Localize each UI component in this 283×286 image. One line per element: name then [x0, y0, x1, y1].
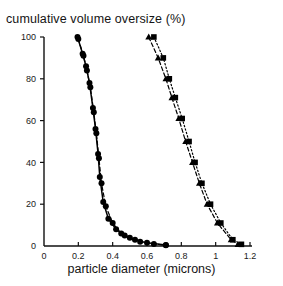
data-point-circle — [127, 235, 133, 241]
y-tick-label: 20 — [26, 199, 36, 209]
data-point-square — [186, 139, 192, 145]
x-tick-label: 0.2 — [72, 251, 85, 261]
data-point-square — [239, 242, 245, 248]
plot-area: 00.20.40.60.811.2 020406080100 — [0, 0, 283, 286]
data-point-circle — [80, 53, 86, 59]
y-tick-label: 60 — [26, 116, 36, 126]
data-point-circle — [93, 130, 99, 136]
x-tick-label: 1 — [213, 251, 218, 261]
data-point-circle — [110, 220, 116, 226]
x-tick-label: 0 — [41, 251, 46, 261]
data-point-square — [218, 220, 224, 226]
series-line — [149, 37, 238, 244]
data-point-circle — [163, 242, 169, 248]
data-point-circle — [103, 203, 109, 209]
y-tick-label: 0 — [31, 241, 36, 251]
data-series-layer — [74, 34, 244, 249]
series-coarse-distribution-square — [151, 34, 244, 247]
series-line — [78, 39, 166, 245]
y-tick-label: 80 — [26, 74, 36, 84]
data-point-circle — [151, 241, 157, 247]
data-point-circle — [137, 239, 143, 245]
data-point-circle — [91, 109, 97, 115]
data-point-circle — [84, 67, 90, 73]
data-point-circle — [118, 230, 124, 236]
x-tick-label: 1.2 — [244, 251, 257, 261]
y-tick-label: 40 — [26, 158, 36, 168]
data-point-square — [179, 116, 185, 122]
data-point-circle — [87, 84, 93, 90]
y-tick-labels: 020406080100 — [21, 32, 36, 251]
x-tick-label: 0.6 — [141, 251, 154, 261]
data-point-circle — [96, 155, 102, 161]
chart-figure: cumulative volume oversize (%) 00.20.40.… — [0, 0, 283, 286]
data-point-square — [151, 34, 157, 40]
series-line — [154, 37, 242, 244]
data-point-square — [192, 160, 198, 166]
axis-lines — [40, 37, 252, 246]
series-fine-distribution-solid — [74, 34, 168, 248]
data-point-square — [161, 55, 167, 61]
data-point-square — [167, 76, 173, 82]
data-point-circle — [99, 180, 105, 186]
data-point-circle — [97, 174, 103, 180]
x-tick-labels: 00.20.40.60.811.2 — [41, 251, 256, 261]
data-point-square — [173, 95, 179, 101]
series-coarse-distribution-triangle — [145, 34, 241, 247]
series-line — [77, 37, 165, 245]
y-tick-label: 100 — [21, 32, 36, 42]
x-axis-label: particle diameter (microns) — [0, 262, 283, 276]
data-point-circle — [75, 36, 81, 42]
series-fine-distribution-dashed — [75, 36, 169, 248]
data-point-square — [208, 201, 214, 207]
data-point-square — [199, 181, 205, 187]
x-tick-label: 0.4 — [106, 251, 119, 261]
x-tick-label: 0.8 — [175, 251, 188, 261]
data-point-square — [230, 237, 236, 243]
